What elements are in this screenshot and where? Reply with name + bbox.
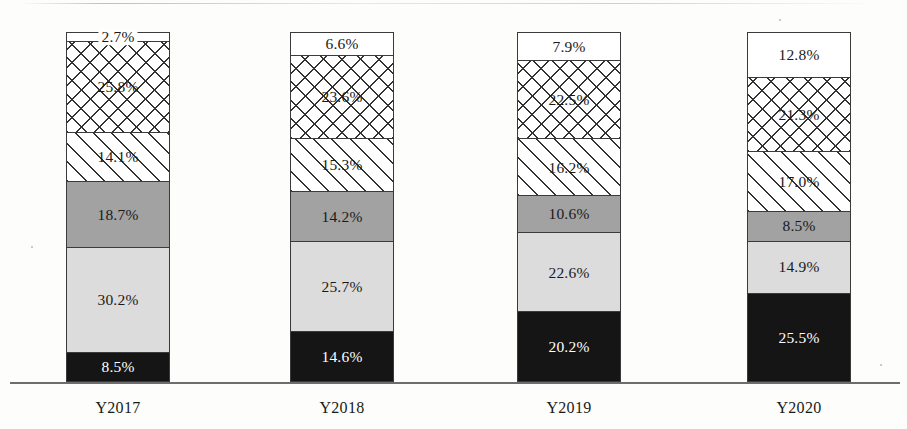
segment-value-label: 20.2% (548, 339, 589, 355)
segment-y2017-segment-1-black[interactable]: 8.5% (66, 352, 170, 382)
segment-value-label: 14.6% (321, 349, 362, 365)
segment-value-label: 15.3% (321, 157, 362, 173)
segment-y2017-segment-6-white[interactable]: 2.7% (66, 32, 170, 41)
segment-y2019-segment-4-diagonal[interactable]: 16.2% (517, 138, 621, 195)
segment-y2017-segment-3-mid-gray[interactable]: 18.7% (66, 181, 170, 246)
segment-y2019-segment-5-crosshatch[interactable]: 22.5% (517, 60, 621, 139)
segment-y2019-segment-6-white[interactable]: 7.9% (517, 32, 621, 60)
segment-value-label: 25.5% (778, 330, 819, 346)
segment-value-label: 6.6% (325, 36, 358, 52)
segment-y2019-segment-1-black[interactable]: 20.2% (517, 311, 621, 382)
segment-value-label: 16.2% (548, 160, 589, 176)
bar-y2019[interactable]: 7.9%22.5%16.2%10.6%22.6%20.2% (517, 32, 621, 382)
segment-value-label: 10.6% (548, 206, 589, 222)
bar-y2017[interactable]: 2.7%25.8%14.1%18.7%30.2%8.5% (66, 32, 170, 382)
segment-y2020-segment-6-white[interactable]: 12.8% (747, 32, 851, 77)
segment-y2017-segment-4-diagonal[interactable]: 14.1% (66, 132, 170, 181)
segment-value-label: 7.9% (552, 39, 585, 55)
segment-value-label: 2.7% (98, 30, 137, 46)
segment-y2018-segment-2-light-gray[interactable]: 25.7% (290, 241, 394, 331)
segment-value-label: 25.8% (97, 79, 138, 95)
segment-y2018-segment-1-black[interactable]: 14.6% (290, 331, 394, 382)
x-axis-label-y2018: Y2018 (257, 399, 427, 417)
bar-y2018[interactable]: 6.6%23.6%15.3%14.2%25.7%14.6% (290, 32, 394, 382)
segment-y2019-segment-3-mid-gray[interactable]: 10.6% (517, 195, 621, 232)
segment-value-label: 30.2% (97, 292, 138, 308)
segment-y2020-segment-1-black[interactable]: 25.5% (747, 293, 851, 382)
x-axis-label-y2019: Y2019 (484, 399, 654, 417)
segment-value-label: 21.3% (778, 107, 819, 123)
stacked-bar-chart: 2.7%25.8%14.1%18.7%30.2%8.5%6.6%23.6%15.… (0, 0, 907, 429)
segment-y2019-segment-2-light-gray[interactable]: 22.6% (517, 232, 621, 311)
segment-y2018-segment-5-crosshatch[interactable]: 23.6% (290, 55, 394, 138)
segment-value-label: 14.9% (778, 259, 819, 275)
plot-area: 2.7%25.8%14.1%18.7%30.2%8.5%6.6%23.6%15.… (0, 0, 907, 429)
segment-value-label: 22.5% (548, 92, 589, 108)
segment-y2020-segment-2-light-gray[interactable]: 14.9% (747, 241, 851, 293)
segment-y2017-segment-2-light-gray[interactable]: 30.2% (66, 247, 170, 353)
x-axis-label-y2020: Y2020 (714, 399, 884, 417)
x-axis-baseline (10, 382, 900, 384)
segment-y2020-segment-5-crosshatch[interactable]: 21.3% (747, 77, 851, 152)
x-axis-label-y2017: Y2017 (33, 399, 203, 417)
segment-value-label: 25.7% (321, 279, 362, 295)
segment-value-label: 22.6% (548, 265, 589, 281)
segment-y2018-segment-4-diagonal[interactable]: 15.3% (290, 138, 394, 192)
segment-value-label: 8.5% (101, 359, 134, 375)
segment-value-label: 18.7% (97, 207, 138, 223)
segment-value-label: 17.0% (778, 174, 819, 190)
segment-y2018-segment-6-white[interactable]: 6.6% (290, 32, 394, 55)
segment-value-label: 12.8% (778, 47, 819, 63)
segment-y2020-segment-4-diagonal[interactable]: 17.0% (747, 151, 851, 211)
segment-value-label: 14.1% (97, 149, 138, 165)
segment-y2018-segment-3-mid-gray[interactable]: 14.2% (290, 191, 394, 241)
segment-y2020-segment-3-mid-gray[interactable]: 8.5% (747, 211, 851, 241)
segment-value-label: 23.6% (321, 89, 362, 105)
segment-value-label: 14.2% (321, 209, 362, 225)
segment-y2017-segment-5-crosshatch[interactable]: 25.8% (66, 41, 170, 131)
bar-y2020[interactable]: 12.8%21.3%17.0%8.5%14.9%25.5% (747, 32, 851, 382)
segment-value-label: 8.5% (782, 218, 815, 234)
